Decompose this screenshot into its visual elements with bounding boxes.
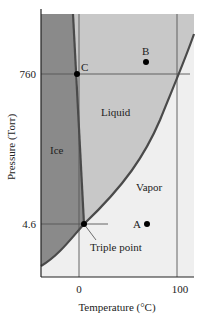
x-axis-label: Temperature (°C) [78, 301, 156, 314]
triple-point-marker [81, 221, 87, 227]
liquid-region-label: Liquid [101, 106, 131, 118]
y-tick-4-6: 4.6 [22, 218, 36, 230]
phase-diagram: C B A Triple point Ice Liquid Vapor 760 … [0, 0, 207, 319]
triple-point-label: Triple point [90, 241, 142, 253]
x-tick-100: 100 [172, 283, 189, 295]
vapor-region-label: Vapor [136, 181, 163, 193]
point-b-label: B [142, 45, 149, 57]
point-c-label: C [81, 61, 88, 73]
point-a-marker [144, 221, 150, 227]
point-c-marker [74, 71, 80, 77]
x-tick-0: 0 [76, 283, 82, 295]
y-axis-label: Pressure (Torr) [5, 114, 18, 180]
point-a-label: A [133, 218, 141, 230]
y-tick-760: 760 [20, 68, 37, 80]
ice-region-label: Ice [50, 144, 64, 156]
point-b-marker [143, 59, 149, 65]
